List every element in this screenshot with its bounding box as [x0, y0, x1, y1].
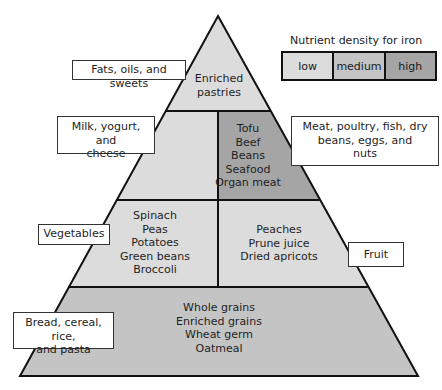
label-line: Milk, yogurt, and [62, 120, 150, 147]
food-item: Peas [120, 223, 190, 237]
food-item: Oatmeal [176, 342, 262, 356]
label-line: beans, eggs, and [296, 134, 434, 148]
food-item: Spinach [120, 209, 190, 223]
label-meat-group: Meat, poultry, fish, dry beans, eggs, an… [291, 116, 439, 166]
food-item: Dried apricots [240, 250, 317, 264]
label-line: Bread, cereal, rice, [18, 316, 109, 343]
food-item: Beef [215, 136, 281, 150]
legend: low medium high [281, 51, 437, 81]
grains-foods: Whole grains Enriched grains Wheat germ … [176, 301, 262, 355]
label-vegetables: Vegetables [38, 224, 110, 245]
food-item: Broccoli [120, 263, 190, 277]
food-item: Prune juice [240, 237, 317, 251]
food-item: Tofu [215, 122, 281, 136]
food-item: pastries [195, 86, 243, 100]
food-item: Enriched grains [176, 315, 262, 329]
label-milk-yogurt-cheese: Milk, yogurt, and cheese [57, 116, 155, 154]
fruit-foods: Peaches Prune juice Dried apricots [240, 223, 317, 264]
label-line: cheese [62, 147, 150, 161]
food-item: Potatoes [120, 236, 190, 250]
food-item: Peaches [240, 223, 317, 237]
fats-foods: Enriched pastries [195, 72, 243, 99]
meat-foods: Tofu Beef Beans Seafood Organ meat [215, 122, 281, 190]
food-item: Organ meat [215, 176, 281, 190]
legend-title: Nutrient density for iron [290, 34, 422, 47]
label-line: and pasta [18, 343, 109, 357]
food-item: Seafood [215, 163, 281, 177]
legend-high: high [386, 53, 435, 79]
food-item: Beans [215, 149, 281, 163]
label-line: Meat, poultry, fish, dry [296, 120, 434, 134]
label-fats-oils-sweets: Fats, oils, and sweets [72, 60, 186, 80]
food-item: Whole grains [176, 301, 262, 315]
food-item: Enriched [195, 72, 243, 86]
label-line: nuts [296, 147, 434, 161]
label-bread-cereal: Bread, cereal, rice, and pasta [13, 312, 114, 349]
food-item: Green beans [120, 250, 190, 264]
label-fruit: Fruit [348, 242, 404, 267]
legend-low: low [283, 53, 334, 79]
food-item: Wheat germ [176, 328, 262, 342]
legend-medium: medium [334, 53, 385, 79]
vegetables-foods: Spinach Peas Potatoes Green beans Brocco… [120, 209, 190, 277]
